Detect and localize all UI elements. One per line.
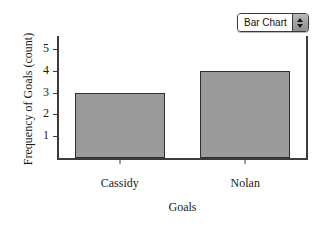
triangle-up-icon[interactable]: [297, 18, 303, 22]
x-axis-line: [57, 158, 308, 160]
bar-nolan[interactable]: [200, 71, 290, 158]
bar-cassidy[interactable]: [75, 93, 165, 158]
y-tick: 3: [53, 93, 57, 94]
x-tick-label: Cassidy: [101, 176, 139, 190]
bar-chart-app: Bar Chart Frequency of Goals (count) 123…: [0, 0, 329, 228]
y-tick-label: 5: [43, 41, 49, 55]
y-tick-label: 4: [43, 63, 49, 77]
y-axis-title: Frequency of Goals (count): [21, 19, 35, 179]
chart-type-selector[interactable]: Bar Chart: [237, 13, 309, 32]
y-tick-label: 3: [43, 85, 49, 99]
y-tick-label: 1: [43, 128, 49, 142]
x-tick: [119, 160, 120, 164]
x-tick: [245, 160, 246, 164]
x-tick-label: Nolan: [231, 176, 260, 190]
y-tick: 4: [53, 71, 57, 72]
triangle-down-icon[interactable]: [297, 24, 303, 28]
y-tick-label: 2: [43, 106, 49, 120]
y-tick: 1: [53, 136, 57, 137]
y-tick: 5: [53, 49, 57, 50]
chart-type-value[interactable]: Bar Chart: [238, 14, 292, 31]
chart-type-stepper[interactable]: [292, 14, 308, 31]
y-axis-line: [57, 36, 59, 160]
plot-area: 12345 CassidyNolan: [57, 36, 308, 160]
x-axis-title: Goals: [57, 200, 308, 214]
y-tick: 2: [53, 114, 57, 115]
plot-right-border: [306, 36, 308, 160]
